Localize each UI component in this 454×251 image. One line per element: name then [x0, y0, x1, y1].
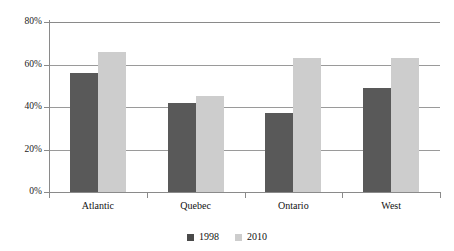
y-axis-tick-label: 40% — [0, 101, 42, 111]
legend-label-1998: 1998 — [199, 232, 219, 242]
plot-area — [49, 22, 440, 192]
bar-atlantic-2010[interactable] — [98, 52, 126, 192]
grouped-bar-chart: 80%60%40%20%0% AtlanticQuebecOntarioWest… — [0, 0, 454, 251]
x-axis-tick-mark — [342, 193, 343, 198]
legend-label-2010: 2010 — [247, 232, 267, 242]
legend-swatch-1998-icon — [187, 234, 194, 241]
bar-ontario-2010[interactable] — [293, 58, 321, 192]
chart-legend: 1998 2010 — [0, 232, 454, 242]
bar-west-2010[interactable] — [391, 58, 419, 192]
legend-swatch-2010-icon — [235, 234, 242, 241]
x-axis-category-label-quebec: Quebec — [147, 200, 245, 211]
y-axis-tick-label: 80% — [0, 16, 42, 26]
bar-ontario-1998[interactable] — [265, 113, 293, 192]
x-axis-tick-mark — [440, 193, 441, 198]
x-axis-tick-mark — [49, 193, 50, 198]
x-axis-category-label-atlantic: Atlantic — [49, 200, 147, 211]
y-axis-tick-label: 0% — [0, 186, 42, 196]
x-axis-tick-mark — [147, 193, 148, 198]
x-axis-category-label-west: West — [342, 200, 440, 211]
bar-quebec-1998[interactable] — [168, 103, 196, 192]
y-axis-tick-label: 60% — [0, 59, 42, 69]
x-axis-category-label-ontario: Ontario — [245, 200, 343, 211]
legend-item-1998[interactable]: 1998 — [187, 232, 219, 242]
bar-atlantic-1998[interactable] — [70, 73, 98, 192]
y-axis-tick-label: 20% — [0, 144, 42, 154]
x-axis-tick-mark — [245, 193, 246, 198]
legend-item-2010[interactable]: 2010 — [235, 232, 267, 242]
bar-quebec-2010[interactable] — [196, 96, 224, 192]
bar-west-1998[interactable] — [363, 88, 391, 192]
